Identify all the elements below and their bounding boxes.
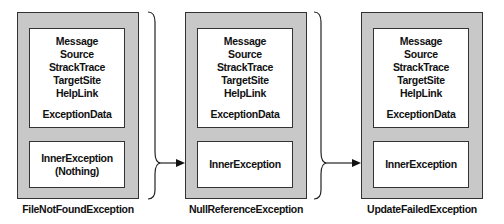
connector-overlay: [0, 0, 504, 224]
brace-icon: [148, 12, 161, 199]
brace-icon: [314, 12, 327, 199]
arrow-icon: [327, 159, 361, 167]
arrow-icon: [161, 159, 185, 167]
